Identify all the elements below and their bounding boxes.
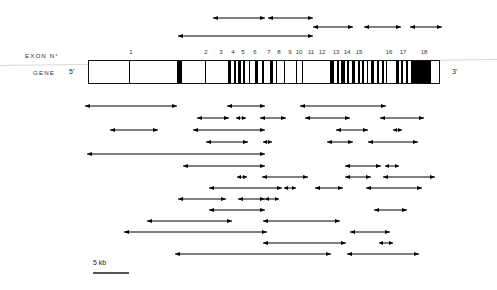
exon-band: [276, 61, 277, 83]
arrow-head-right-icon: [363, 128, 368, 132]
arrow-head-left-icon: [183, 164, 188, 168]
arrow-head-left-icon: [305, 116, 310, 120]
exon-band: [177, 61, 182, 83]
arrow-head-right-icon: [268, 140, 272, 144]
arrow-head-left-icon: [209, 208, 214, 212]
arrow-shaft: [175, 254, 331, 255]
arrow-head-left-icon: [193, 128, 198, 132]
exon-number: 10: [296, 49, 303, 55]
arrow-shaft: [305, 118, 350, 119]
arrow-head-right-icon: [395, 164, 399, 168]
exon-band: [330, 61, 334, 83]
exon-band: [362, 61, 364, 83]
arrow-shaft: [147, 221, 232, 222]
arrow-shaft: [213, 18, 265, 19]
arrow-head-left-icon: [327, 140, 332, 144]
exon-number: 16: [386, 49, 393, 55]
arrow-head-right-icon: [419, 116, 424, 120]
arrow-shaft: [209, 188, 282, 189]
arrow-shaft: [380, 118, 424, 119]
arrow-head-left-icon: [85, 104, 90, 108]
exon-band: [249, 61, 250, 83]
arrow-shaft: [383, 177, 435, 178]
arrow-head-right-icon: [398, 128, 402, 132]
exon-band: [341, 61, 345, 83]
arrow-shaft: [350, 232, 390, 233]
arrow-head-left-icon: [87, 152, 92, 156]
arrow-shaft: [178, 199, 226, 200]
exon-number: 17: [400, 49, 407, 55]
exon-band: [262, 61, 264, 83]
exon-band: [396, 61, 399, 83]
gene-row-label: GENE: [33, 69, 55, 76]
arrow-head-right-icon: [292, 186, 296, 190]
arrow-shaft: [262, 177, 308, 178]
five-prime-label: 5': [69, 68, 74, 75]
arrow-shaft: [263, 243, 346, 244]
arrow-head-left-icon: [213, 16, 218, 20]
arrow-head-left-icon: [260, 116, 265, 120]
arrow-head-right-icon: [260, 152, 265, 156]
arrow-head-left-icon: [374, 208, 379, 212]
arrow-head-right-icon: [326, 252, 331, 256]
arrow-shaft: [366, 188, 422, 189]
arrow-head-left-icon: [336, 128, 341, 132]
arrow-head-right-icon: [308, 16, 313, 20]
arrow-head-left-icon: [197, 116, 202, 120]
exon-band: [234, 61, 236, 83]
arrow-head-left-icon: [178, 34, 183, 38]
arrow-head-left-icon: [380, 116, 385, 120]
arrow-head-right-icon: [396, 25, 401, 29]
arrow-head-right-icon: [389, 241, 393, 245]
arrow-shaft: [209, 210, 265, 211]
arrow-head-left-icon: [410, 25, 415, 29]
arrow-head-right-icon: [345, 116, 350, 120]
arrow-head-left-icon: [383, 175, 388, 179]
scale-bar-label: 5 kb: [93, 259, 106, 266]
exon-band: [386, 61, 387, 83]
arrow-head-right-icon: [348, 140, 353, 144]
exon-band: [371, 61, 374, 83]
arrow-head-left-icon: [379, 241, 383, 245]
exon-band: [382, 61, 384, 83]
exon-number: 5: [241, 49, 244, 55]
exon-band: [337, 61, 339, 83]
arrow-head-left-icon: [263, 140, 267, 144]
arrow-head-left-icon: [347, 252, 352, 256]
arrow-head-left-icon: [265, 197, 269, 201]
arrow-head-right-icon: [172, 104, 177, 108]
arrow-head-right-icon: [414, 252, 419, 256]
arrow-head-right-icon: [376, 164, 381, 168]
arrow-shaft: [300, 106, 386, 107]
arrow-shaft: [313, 27, 353, 28]
arrow-shaft: [206, 142, 248, 143]
arrow-head-right-icon: [242, 116, 246, 120]
exon-band: [377, 61, 379, 83]
arrow-head-left-icon: [263, 219, 268, 223]
exon-number: 11: [308, 49, 314, 55]
arrow-head-left-icon: [236, 116, 240, 120]
arrow-head-left-icon: [364, 25, 369, 29]
exon-band: [367, 61, 368, 83]
exon-band: [243, 61, 245, 83]
arrow-head-right-icon: [437, 25, 442, 29]
exon-number: 12: [319, 49, 326, 55]
exon-number: 13: [333, 49, 340, 55]
exon-band: [406, 61, 408, 83]
exon-band: [347, 61, 349, 83]
arrow-head-right-icon: [262, 230, 267, 234]
arrow-head-right-icon: [153, 128, 158, 132]
arrow-head-right-icon: [348, 25, 353, 29]
exon-band: [296, 61, 297, 83]
arrow-head-right-icon: [260, 104, 265, 108]
arrow-shaft: [268, 18, 313, 19]
exon-band: [129, 61, 130, 83]
arrow-head-left-icon: [366, 186, 371, 190]
exon-number: 7: [267, 49, 270, 55]
arrow-head-left-icon: [178, 197, 183, 201]
exon-number: 3: [219, 49, 222, 55]
arrow-head-left-icon: [227, 104, 232, 108]
arrow-head-right-icon: [260, 16, 265, 20]
arrow-head-right-icon: [430, 175, 435, 179]
arrow-head-left-icon: [393, 128, 397, 132]
